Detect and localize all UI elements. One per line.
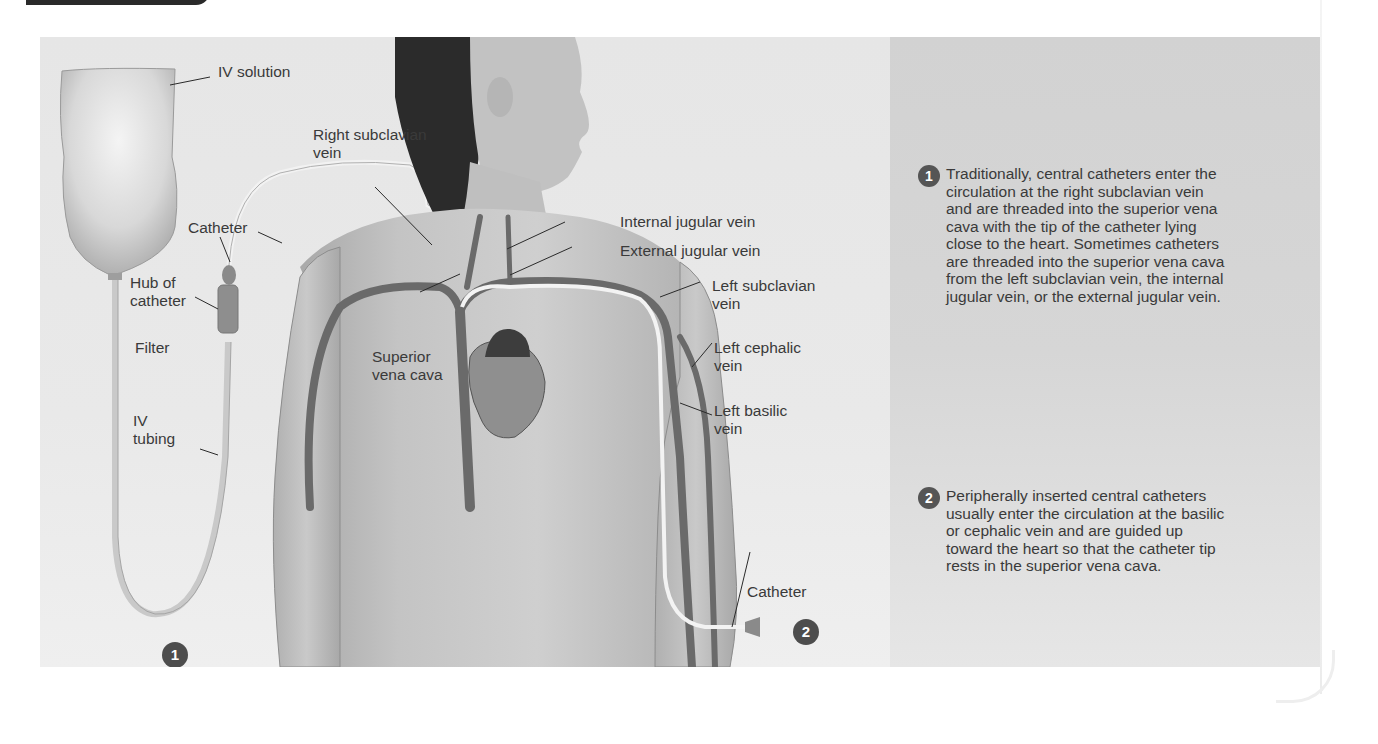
label-external-jugular-vein: External jugular vein [620, 242, 760, 260]
label-catheter-top: Catheter [188, 219, 247, 237]
external-jugular-vein-path [508, 217, 510, 282]
iv-bag-port [108, 273, 122, 280]
label-catheter-bottom: Catheter [747, 583, 806, 601]
catheter-hub [222, 265, 236, 285]
label-iv-tubing: IV tubing [133, 412, 175, 448]
step-badge-1: 1 [162, 642, 188, 667]
label-filter: Filter [135, 339, 169, 357]
label-left-subclavian-vein: Left subclavian vein [712, 277, 815, 313]
label-iv-solution: IV solution [218, 63, 290, 81]
label-hub-of-catheter: Hub of catheter [130, 274, 186, 310]
filter [218, 285, 238, 333]
section-tab [26, 0, 210, 5]
step-2-number: 2 [918, 487, 940, 509]
torso [300, 209, 695, 667]
label-right-subclavian-vein: Right subclavian vein [313, 126, 427, 162]
picc-hub [745, 617, 760, 637]
label-left-cephalic-vein: Left cephalic vein [714, 339, 801, 375]
iv-bag [60, 68, 177, 275]
step-badge-2: 2 [793, 619, 819, 645]
label-left-basilic-vein: Left basilic vein [714, 402, 787, 438]
label-superior-vena-cava: Superior vena cava [372, 348, 443, 384]
step-2-text: Peripherally inserted central catheters … [946, 487, 1226, 575]
step-1-text: Traditionally, central catheters enter t… [946, 165, 1226, 305]
step-1-number: 1 [918, 165, 940, 187]
figure-panel: IV solution Right subclavian vein Cathet… [40, 37, 1320, 667]
ear [487, 77, 513, 117]
page-border [1320, 0, 1322, 694]
label-internal-jugular-vein: Internal jugular vein [620, 213, 755, 231]
